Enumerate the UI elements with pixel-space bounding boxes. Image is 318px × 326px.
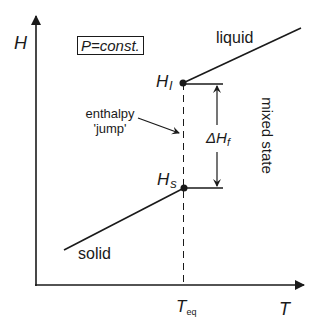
solid-enthalpy-subscript: s bbox=[170, 176, 177, 191]
jump-line-1: enthalpy bbox=[80, 106, 140, 121]
jump-pointer-arrow bbox=[138, 118, 179, 133]
mixed-state-label: mixed state bbox=[260, 91, 275, 181]
delta-h-symbol: ΔH bbox=[206, 129, 227, 146]
liquid-enthalpy-subscript: l bbox=[169, 78, 172, 93]
pressure-constant-box: P=const. bbox=[77, 36, 144, 55]
solid-point-dot bbox=[181, 185, 188, 192]
delta-h-fusion-label: ΔHf bbox=[206, 129, 230, 149]
enthalpy-jump-annotation: enthalpy 'jump' bbox=[80, 106, 140, 136]
solid-enthalpy-label: Hs bbox=[157, 171, 177, 190]
x-axis-label: T bbox=[279, 300, 290, 318]
solid-enthalpy-symbol: H bbox=[157, 170, 169, 189]
liquid-label: liquid bbox=[216, 30, 253, 46]
solid-label: solid bbox=[78, 246, 111, 262]
t-eq-label: Teq bbox=[176, 298, 196, 317]
t-eq-symbol: T bbox=[176, 297, 186, 316]
y-axis-label: H bbox=[14, 34, 27, 52]
delta-h-subscript: f bbox=[227, 136, 230, 148]
solid-line bbox=[64, 188, 184, 250]
liquid-enthalpy-label: Hl bbox=[156, 73, 172, 92]
t-eq-subscript: eq bbox=[186, 307, 196, 317]
enthalpy-temperature-diagram: H T P=const. liquid solid mixed state Hl… bbox=[0, 0, 318, 326]
jump-line-2: 'jump' bbox=[80, 121, 140, 136]
liquid-point-dot bbox=[180, 80, 187, 87]
pressure-constant-text: P=const. bbox=[81, 37, 140, 54]
liquid-enthalpy-symbol: H bbox=[156, 72, 168, 91]
